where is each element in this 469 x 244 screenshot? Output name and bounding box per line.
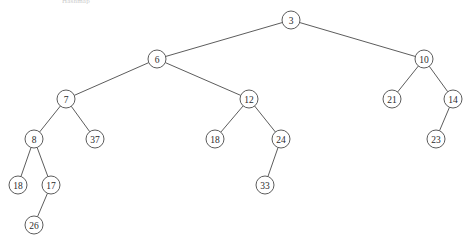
- tree-node-label: 18: [13, 181, 23, 191]
- tree-node[interactable]: 23: [427, 130, 445, 148]
- tree-node[interactable]: 12: [240, 90, 258, 108]
- tree-node[interactable]: 10: [415, 50, 433, 68]
- tree-node[interactable]: 7: [57, 90, 75, 108]
- tree-edge: [38, 193, 48, 216]
- tree-edge: [429, 66, 447, 91]
- tree-edge: [37, 147, 48, 176]
- tree-node[interactable]: 37: [86, 130, 104, 148]
- tree-edge: [21, 148, 31, 177]
- tree-edges-group: [21, 23, 450, 217]
- tree-edge: [398, 66, 419, 92]
- tree-edge: [40, 106, 61, 132]
- tree-node-label: 24: [276, 135, 286, 145]
- tree-node[interactable]: 24: [272, 130, 290, 148]
- tree-node-label: 23: [431, 135, 441, 145]
- tree-node-label: 14: [448, 95, 458, 105]
- tree-edge: [268, 148, 278, 177]
- tree-node[interactable]: 26: [25, 216, 43, 234]
- tree-node[interactable]: 21: [383, 90, 401, 108]
- tree-node-label: 21: [387, 95, 397, 105]
- tree-edge: [71, 106, 89, 131]
- tree-node-label: 12: [244, 95, 254, 105]
- tree-node-label: 18: [210, 135, 220, 145]
- tree-node[interactable]: 18: [9, 176, 27, 194]
- binary-tree-graphic: 3610712211483718242318173326: [0, 0, 469, 244]
- tree-edge: [166, 23, 283, 57]
- tree-node[interactable]: 33: [256, 176, 274, 194]
- tree-node-label: 8: [32, 135, 37, 145]
- tree-node-label: 17: [46, 181, 56, 191]
- tree-node-label: 6: [155, 55, 160, 65]
- tree-edge: [440, 107, 450, 130]
- tree-node[interactable]: 8: [25, 130, 43, 148]
- tree-node[interactable]: 3: [282, 11, 300, 29]
- tree-node[interactable]: 14: [444, 90, 462, 108]
- tree-edge: [74, 63, 149, 96]
- tree-node[interactable]: 17: [42, 176, 60, 194]
- tree-node[interactable]: 6: [148, 50, 166, 68]
- tree-node-label: 37: [90, 135, 100, 145]
- tree-edge: [255, 106, 276, 132]
- tree-edge: [165, 63, 241, 96]
- tree-nodes-group: 3610712211483718242318173326: [9, 11, 462, 234]
- tree-node-label: 10: [419, 55, 429, 65]
- tree-diagram-canvas: Hashmap 3610712211483718242318173326: [0, 0, 469, 244]
- tree-node-label: 26: [29, 221, 39, 231]
- tree-node-label: 7: [64, 95, 69, 105]
- tree-node-label: 33: [260, 181, 270, 191]
- tree-node-label: 3: [289, 16, 294, 26]
- tree-edge: [300, 23, 416, 57]
- tree-edge: [221, 106, 243, 132]
- tree-node[interactable]: 18: [206, 130, 224, 148]
